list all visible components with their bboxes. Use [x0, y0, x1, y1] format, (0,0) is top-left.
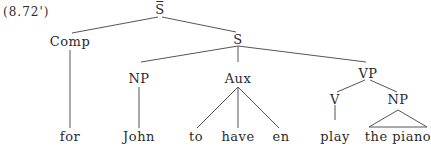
- example-number: (8.72'): [3, 5, 49, 19]
- node-v: V: [330, 93, 340, 107]
- branch-vp-v: [337, 80, 365, 92]
- branch-s-np: [141, 46, 238, 62]
- branch-aux-to: [197, 87, 238, 128]
- branch-vp-np: [370, 80, 397, 92]
- node-s-bar-label: S: [155, 3, 164, 17]
- node-s: S: [233, 33, 242, 47]
- branch-s-vp: [238, 46, 366, 62]
- node-vp: VP: [358, 67, 377, 81]
- triangle-np-the-piano: [369, 110, 427, 127]
- leaf-have: have: [221, 130, 254, 144]
- leaf-the-piano: the piano: [365, 130, 431, 144]
- branch-sbar-comp: [72, 17, 158, 33]
- node-comp: Comp: [50, 35, 90, 49]
- leaf-play: play: [320, 130, 350, 144]
- branch-aux-en: [238, 87, 279, 128]
- node-s-bar: S: [155, 3, 164, 17]
- node-aux: Aux: [225, 72, 252, 86]
- node-np-subject: NP: [128, 72, 149, 86]
- node-np-object: NP: [387, 93, 408, 107]
- branch-sbar-s: [162, 17, 236, 32]
- leaf-en: en: [272, 130, 289, 144]
- leaf-to: to: [189, 130, 203, 144]
- leaf-john: John: [123, 130, 155, 144]
- leaf-for: for: [60, 130, 80, 144]
